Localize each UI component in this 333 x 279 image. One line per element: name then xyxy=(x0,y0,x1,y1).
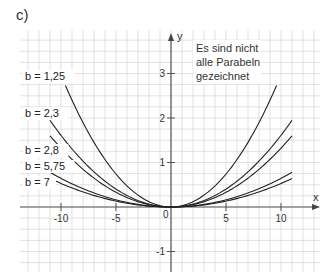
curve-label: b = 2,3 xyxy=(25,107,59,119)
curve-label: b = 2,8 xyxy=(25,144,59,156)
curve-label: b = 7 xyxy=(25,176,50,188)
x-tick-label: 10 xyxy=(275,213,287,224)
y-tick-label: -1 xyxy=(156,246,165,257)
annotation-line: gezeichnet xyxy=(196,70,249,82)
x-tick-label: -10 xyxy=(54,213,69,224)
curve-label: b = 5,75 xyxy=(25,160,65,172)
curve-label: b = 1,25 xyxy=(25,70,65,82)
y-axis-arrow-icon xyxy=(168,33,174,41)
x-tick-label: 5 xyxy=(223,213,229,224)
x-axis-arrow-icon xyxy=(312,204,320,210)
annotation-line: Es sind nicht xyxy=(196,42,258,54)
annotation: Es sind nichtalle Parabelngezeichnet xyxy=(193,40,261,84)
x-axis-label: x xyxy=(313,191,319,203)
y-tick-label: 2 xyxy=(159,113,165,124)
parabola-chart: xy0-10-5510321-1 b = 1,25b = 2,3b = 2,8b… xyxy=(0,0,333,279)
y-tick-label: 3 xyxy=(159,68,165,79)
y-axis-label: y xyxy=(177,30,183,42)
x-tick-label: -5 xyxy=(112,213,121,224)
y-tick-label: 1 xyxy=(159,157,165,168)
annotation-line: alle Parabeln xyxy=(196,56,260,68)
origin-label: 0 xyxy=(163,209,169,220)
